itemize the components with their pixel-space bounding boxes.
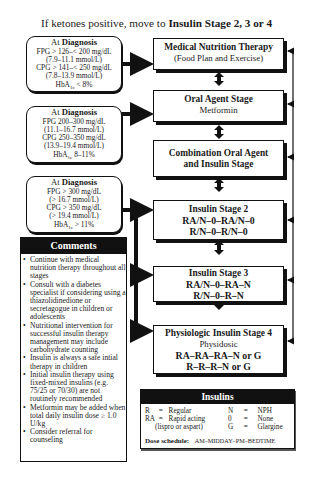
legend-code: G: [228, 423, 242, 431]
heading-bold: Diagnosis: [62, 37, 97, 47]
stage-subtitle: (Food Plan and Exercise): [154, 53, 283, 64]
stage-title: Insulin Stage 2: [154, 204, 283, 215]
stage-title: Oral Agent Stage: [154, 94, 283, 105]
stage-title-line1: Combination Oral Agent: [154, 148, 283, 159]
stage-combination-oral-insulin: Combination Oral Agent and Insulin Stage: [153, 140, 284, 177]
hba1c-line: HbA1c > 11%: [27, 221, 121, 233]
diagnosis-box-moderate: At Diagnosis FPG 200–300 mg/dL (11.1–16.…: [26, 106, 122, 163]
stage-title: Insulin Stage 3: [154, 268, 283, 279]
stage-regimen-regular: R–R–R–N or G: [154, 361, 283, 372]
comments-header: Comments: [21, 238, 126, 254]
dose-schedule-value: AM–MIDDAY–PM–BEDTIME: [195, 437, 276, 444]
stage-insulin-3: Insulin Stage 3 RA/N–0–RA–N R/N–0–R–N: [153, 266, 284, 302]
legend-name: Rapid acting: [169, 415, 206, 423]
legend-name: NPH: [258, 407, 272, 415]
hba-label: HbA: [53, 150, 67, 159]
comment-item: Continue with medical nutrition therapy …: [30, 256, 126, 281]
comment-item: Initial insulin therapy using fixed-mixe…: [30, 371, 126, 404]
hba-value: 8–11%: [72, 150, 95, 159]
heading-prefix: At: [51, 107, 62, 117]
stage-subtitle: Physidosic: [154, 339, 283, 350]
stage-regimen-rapid: RA/N–0–RA–N: [154, 279, 283, 290]
hba1c-line: HbA1c < 8%: [27, 81, 121, 93]
heading-prefix: At: [51, 37, 62, 47]
comments-list: Continue with medical nutrition therapy …: [21, 256, 126, 445]
comment-item: Insulin is always a safe intial therapy …: [30, 354, 126, 370]
insulins-header: Insulins: [141, 390, 294, 404]
stage-insulin-2: Insulin Stage 2 RA/N–0–RA/N–0 R/N–0–R/N–…: [153, 200, 284, 240]
legend-name: (lispro or aspart): [155, 423, 203, 431]
dose-schedule: Dose schedule: AM–MIDDAY–PM–BEDTIME: [145, 437, 295, 445]
legend-name: None: [258, 415, 274, 423]
stage-regimen-rapid: RA/N–0–RA/N–0: [154, 215, 283, 226]
stage-regimen-rapid: RA–RA–RA–N or G: [154, 350, 283, 361]
diagnosis-box-severe: At Diagnosis FPG > 300 mg/dL (> 16.7 mmo…: [26, 176, 122, 233]
stage-title: Physiologic Insulin Stage 4: [154, 328, 283, 339]
stage-medical-nutrition-therapy: Medical Nutrition Therapy (Food Plan and…: [153, 38, 284, 70]
dose-schedule-label: Dose schedule:: [145, 437, 189, 445]
comments-panel: Comments Continue with medical nutrition…: [20, 237, 127, 462]
stage-title: Medical Nutrition Therapy: [154, 42, 283, 53]
comment-item: Consult with a diabetes specialist if co…: [30, 281, 126, 322]
legend-name: Glargine: [258, 423, 283, 431]
stage-subtitle: Metformin: [154, 105, 283, 116]
comment-item: Nutritional intervention for successful …: [30, 322, 126, 355]
heading-bold: Diagnosis: [62, 107, 97, 117]
stage-title-line2: and Insulin Stage: [154, 159, 283, 170]
heading-prefix: At: [51, 177, 62, 187]
stage-regimen-regular: R/N–0–R/N–0: [154, 226, 283, 237]
diagnosis-box-mild: At Diagnosis FPG > 126–< 200 mg/dL (7.9–…: [26, 36, 122, 92]
heading-bold: Diagnosis: [62, 177, 97, 187]
legend-eq: =: [244, 423, 256, 431]
insulins-legend: Insulins R = Regular RA = Rapid acting (…: [140, 389, 295, 449]
stage-physiologic-insulin-4: Physiologic Insulin Stage 4 Physidosic R…: [153, 325, 284, 374]
stage-regimen-regular: R/N–0–R–N: [154, 290, 283, 301]
legend-name: Regular: [169, 407, 192, 415]
hba-value: < 8%: [75, 80, 93, 89]
hba-label: HbA: [56, 80, 70, 89]
hba1c-line: HbA1c 8–11%: [27, 151, 121, 163]
stage-oral-agent: Oral Agent Stage Metformin: [153, 90, 284, 122]
hba-label: HbA: [54, 220, 68, 229]
legend-rapid-acting-note: (lispro or aspart): [155, 423, 235, 431]
comment-item: Consider referral for counseling: [30, 428, 126, 444]
hba-value: > 11%: [73, 220, 94, 229]
comment-item: Metformin may be added when total daily …: [30, 404, 126, 429]
legend-glargine: G = Glargine: [228, 423, 296, 431]
